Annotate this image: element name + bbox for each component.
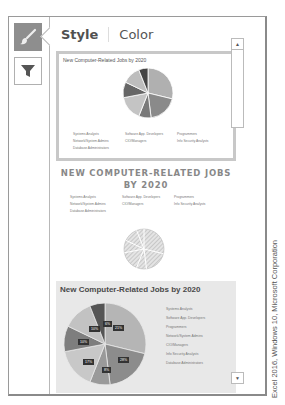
pie-chart-preview: [122, 227, 166, 271]
legend-item: Software App. Developers: [166, 316, 205, 320]
title-line-1: NEW COMPUTER-RELATED JOBS: [56, 167, 236, 179]
legend-item: Database Administrators: [70, 209, 122, 213]
style-thumbnail-2[interactable]: NEW COMPUTER-RELATED JOBS BY 2020 System…: [56, 165, 236, 273]
funnel-icon: [19, 62, 37, 80]
legend-item: Programmers: [177, 132, 229, 136]
data-label: 28%: [118, 357, 129, 363]
tab-style[interactable]: Style: [61, 27, 109, 42]
data-label: 21%: [113, 325, 124, 331]
legend-item: CIO/Managers: [122, 202, 174, 206]
tab-bar: Style Color: [61, 27, 163, 42]
pie-chart-preview: [62, 301, 148, 387]
paintbrush-icon: [18, 27, 38, 47]
legend-item: Programmers: [166, 325, 205, 329]
data-label: 8%: [102, 367, 111, 373]
data-label: 6%: [103, 321, 112, 327]
scrollbar-thumb[interactable]: [231, 50, 244, 128]
format-chart-panel: Style Color New Computer-Related Jobs by…: [8, 16, 267, 396]
legend-item: CIO/Managers: [125, 139, 177, 143]
legend-item: Network/System Admins: [73, 139, 125, 143]
scroll-down-button[interactable]: ▼: [231, 372, 244, 384]
title-line-2: BY 2020: [56, 179, 236, 191]
legend-item: Database Administrators: [166, 361, 205, 365]
legend-item: Software App. Developers: [125, 132, 177, 136]
legend-item: Network/System Admins: [70, 202, 122, 206]
style-thumbnail-3[interactable]: New Computer-Related Jobs by 2020 21% 28…: [56, 281, 236, 393]
legend-item: Software App. Developers: [122, 195, 174, 199]
thumbnail-title: New Computer-Related Jobs by 2020: [59, 54, 233, 63]
style-gallery: New Computer-Related Jobs by 2020 System…: [54, 47, 238, 393]
legend-item: CIO/Managers: [166, 343, 205, 347]
chart-filters-button[interactable]: [14, 57, 42, 85]
pie-chart-preview: [121, 66, 175, 120]
style-thumbnail-1[interactable]: New Computer-Related Jobs by 2020 System…: [56, 51, 236, 161]
legend-item: Database Administrators: [73, 146, 125, 150]
triangle-up-icon: ▲: [235, 41, 240, 47]
thumbnail-title: NEW COMPUTER-RELATED JOBS BY 2020: [56, 165, 236, 191]
data-label: 10%: [78, 339, 89, 345]
legend-item: Network/System Admins: [166, 334, 205, 338]
legend-item: Systems Analysts: [70, 195, 122, 199]
image-credit: Excel 2016, Windows 10, Microsoft Corpor…: [270, 240, 279, 398]
tab-color[interactable]: Color: [119, 27, 163, 42]
legend-item: Info Security Analysts: [177, 139, 229, 143]
chart-legend: Systems Analysts Software App. Developer…: [73, 132, 231, 150]
chart-legend: Systems Analysts Software App. Developer…: [166, 307, 205, 365]
data-label: 17%: [83, 359, 94, 365]
thumbnail-title: New Computer-Related Jobs by 2020: [56, 281, 236, 294]
scroll-up-button[interactable]: ▲: [231, 38, 244, 50]
gallery-scrollbar[interactable]: ▲ ▼: [231, 38, 244, 384]
data-label: 10%: [89, 326, 100, 332]
panel-icon-strip: [9, 17, 50, 394]
chart-legend: Systems Analysts Software App. Developer…: [70, 195, 228, 213]
legend-item: Programmers: [174, 195, 226, 199]
legend-item: Systems Analysts: [73, 132, 125, 136]
legend-item: Systems Analysts: [166, 307, 205, 311]
chart-styles-button[interactable]: [14, 23, 42, 51]
legend-item: Info Security Analysts: [166, 352, 205, 356]
legend-item: Info Security Analysts: [174, 202, 226, 206]
triangle-down-icon: ▼: [235, 375, 240, 381]
